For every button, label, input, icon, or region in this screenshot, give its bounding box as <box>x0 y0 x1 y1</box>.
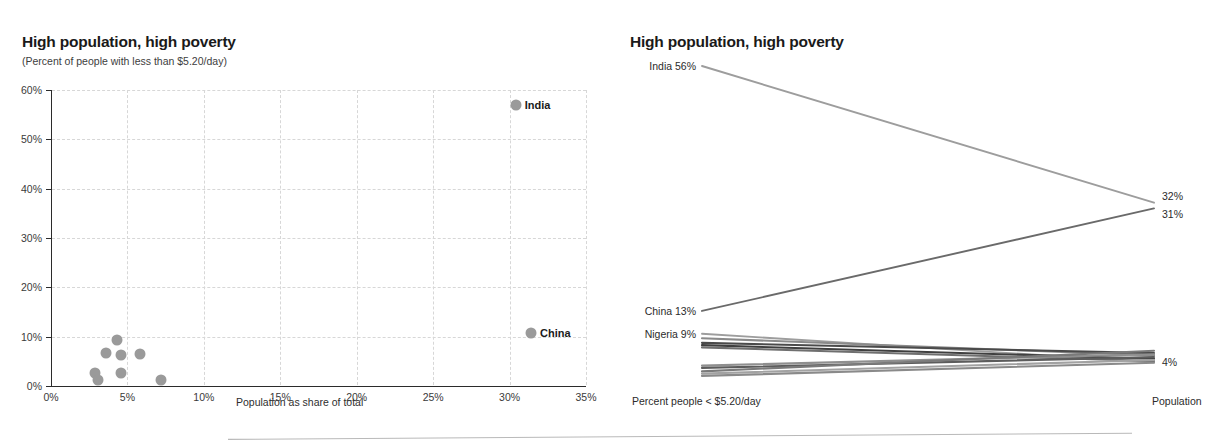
y-axis-tick-label: 50% <box>0 133 42 145</box>
y-tick-mark <box>46 287 51 288</box>
y-tick-mark <box>46 386 51 387</box>
gridline-vertical <box>127 90 128 385</box>
y-axis-tick-label: 60% <box>0 84 42 96</box>
gridline-vertical <box>204 90 205 385</box>
slope-lines <box>614 0 1228 446</box>
gridline-horizontal <box>52 238 586 239</box>
scatter-point-label-india: India <box>525 99 551 111</box>
slope-line-india <box>702 66 1154 203</box>
y-axis-tick-label: 30% <box>0 232 42 244</box>
slope-right-label-india: 32% <box>1162 190 1183 202</box>
gridline-vertical <box>510 90 511 385</box>
y-axis-tick-label: 40% <box>0 183 42 195</box>
y-axis-tick-label: 20% <box>0 281 42 293</box>
gridline-horizontal <box>52 337 586 338</box>
scatter-point <box>134 348 145 359</box>
x-axis-tick-label: 30% <box>499 391 520 403</box>
x-axis-tick-label: 25% <box>423 391 444 403</box>
slope-chart-panel: High population, high poverty Percent pe… <box>614 0 1228 446</box>
slope-line-china <box>702 208 1154 311</box>
scatter-point <box>116 367 127 378</box>
page-bottom-rule <box>228 431 1132 441</box>
y-axis-tick-label: 10% <box>0 331 42 343</box>
scatter-point-label-china: China <box>540 327 571 339</box>
gridline-horizontal <box>52 189 586 190</box>
scatter-chart-panel: High population, high poverty (Percent o… <box>0 0 614 446</box>
slope-left-label-india: India 56% <box>614 60 696 72</box>
gridline-vertical <box>357 90 358 385</box>
x-axis-tick-label: 0% <box>43 391 58 403</box>
y-tick-mark <box>46 90 51 91</box>
scatter-point <box>101 348 112 359</box>
gridline-vertical <box>586 90 587 385</box>
scatter-title: High population, high poverty <box>22 33 236 51</box>
gridline-horizontal <box>52 90 586 91</box>
slope-left-label-nigeria: Nigeria 9% <box>614 328 696 340</box>
scatter-subtitle: (Percent of people with less than $5.20/… <box>22 55 227 67</box>
y-tick-mark <box>46 238 51 239</box>
gridline-horizontal <box>52 287 586 288</box>
slope-right-axis-label: Population <box>1152 395 1202 407</box>
slope-left-axis-label: Percent people < $5.20/day <box>632 395 761 407</box>
slope-right-label-china: 31% <box>1162 208 1183 220</box>
scatter-point-china <box>525 327 536 338</box>
scatter-point-india <box>510 99 521 110</box>
slope-right-label-nigeria: 4% <box>1162 356 1177 368</box>
gridline-vertical <box>280 90 281 385</box>
x-axis-tick-label: 5% <box>120 391 135 403</box>
gridline-vertical <box>433 90 434 385</box>
slope-left-label-china: China 13% <box>614 305 696 317</box>
scatter-point <box>111 335 122 346</box>
x-axis-line <box>51 386 586 387</box>
y-tick-mark <box>46 189 51 190</box>
y-tick-mark <box>46 337 51 338</box>
x-axis-tick-label: 35% <box>575 391 596 403</box>
scatter-point <box>156 374 167 385</box>
x-axis-tick-label: 15% <box>270 391 291 403</box>
gridline-horizontal <box>52 139 586 140</box>
y-tick-mark <box>46 139 51 140</box>
x-axis-title: Population as share of total <box>236 396 363 408</box>
scatter-point <box>116 350 127 361</box>
scatter-point <box>93 375 104 386</box>
x-axis-tick-label: 20% <box>346 391 367 403</box>
y-axis-tick-label: 0% <box>0 380 42 392</box>
x-axis-tick-label: 10% <box>193 391 214 403</box>
